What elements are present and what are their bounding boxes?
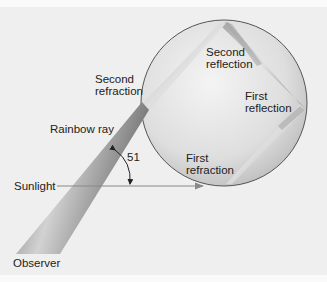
rainbow-diagram xyxy=(0,0,327,282)
label-rainbow-ray: Rainbow ray xyxy=(50,123,114,135)
label-second-refraction: Second refraction xyxy=(95,73,143,97)
label-second-reflection: Second reflection xyxy=(206,46,253,70)
label-angle: 51 xyxy=(127,151,140,163)
label-observer: Observer xyxy=(13,257,60,269)
label-first-refraction: First refraction xyxy=(186,152,234,176)
label-sunlight: Sunlight xyxy=(14,180,56,192)
label-first-reflection: First reflection xyxy=(245,90,292,114)
